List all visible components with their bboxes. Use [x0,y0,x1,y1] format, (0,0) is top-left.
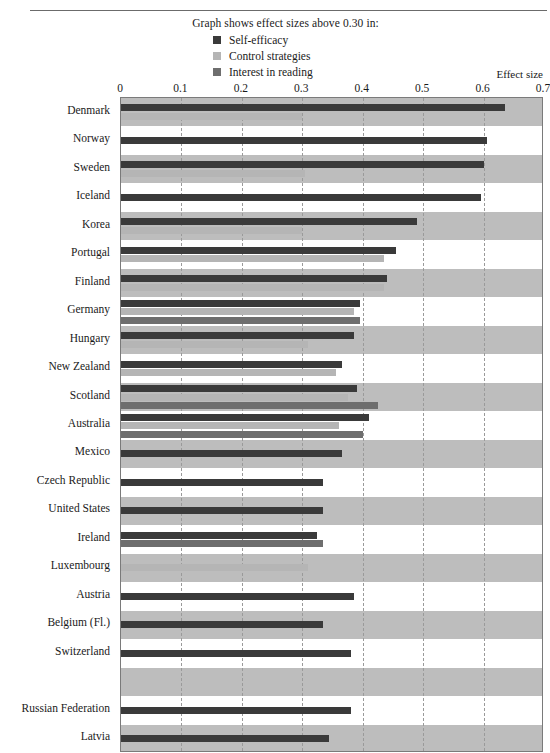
y-axis-category-label: Luxembourg [0,559,115,571]
bar [121,308,354,315]
y-axis-category-label: Portugal [0,246,115,258]
bar [121,402,378,409]
bar [121,341,308,348]
bar [121,479,323,486]
x-axis-tick-label: 0.1 [173,82,187,94]
bar [121,317,360,324]
bar [121,414,369,421]
x-axis-title: Effect size [496,68,543,80]
y-axis-category-label: Denmark [0,104,115,116]
bar [121,194,481,201]
bar [121,161,484,168]
bar [121,170,305,177]
x-axis-tick-label: 0.4 [355,82,369,94]
y-axis-category-label: Korea [0,218,115,230]
bar [121,507,323,514]
legend: Graph shows effect sizes above 0.30 in: … [0,17,547,81]
y-axis-category-label: Switzerland [0,645,115,657]
bar [121,621,323,628]
bar [121,369,336,376]
y-axis-category-label: Belgium (Fl.) [0,616,115,628]
bar [121,284,384,291]
y-axis-category-label: Finland [0,275,115,287]
bar [121,593,354,600]
bar [121,394,348,401]
bar [121,255,384,262]
bar [121,540,323,547]
bar [121,137,487,144]
legend-item-label: Interest in reading [229,65,313,79]
bar [121,275,387,282]
y-axis-category-label: Norway [0,132,115,144]
bar [121,650,351,657]
x-axis-tick-label: 0.7 [536,82,550,94]
x-axis-tick-labels: 00.10.20.30.40.50.60.7 [0,82,547,97]
plot-area [120,97,543,752]
bar [121,332,354,339]
legend-item-label: Self-efficacy [229,33,288,47]
legend-caption: Graph shows effect sizes above 0.30 in: [24,17,547,29]
bar [121,218,417,225]
x-axis-tick-label: 0 [117,82,123,94]
square-swatch-icon [213,52,221,60]
bar [121,385,357,392]
bar [121,735,329,742]
legend-item: Control strategies [213,49,547,63]
y-axis-category-label: Czech Republic [0,474,115,486]
bar [121,422,339,429]
y-axis-category-label: New Zealand [0,360,115,372]
x-axis-tick-label: 0.6 [475,82,489,94]
bar [121,532,317,539]
bar [121,300,360,307]
bar [121,564,308,571]
y-axis-category-labels: DenmarkNorwaySwedenIcelandKoreaPortugalF… [0,97,115,752]
y-axis-category-label: Australia [0,417,115,429]
bar [121,707,351,714]
bar [121,247,396,254]
x-axis-tick-label: 0.5 [415,82,429,94]
x-axis-tick-label: 0.3 [294,82,308,94]
row-band [121,668,542,696]
y-axis-category-label: Mexico [0,445,115,457]
bar [121,450,342,457]
y-axis-category-label: Scotland [0,389,115,401]
bar [121,104,505,111]
legend-items: Self-efficacyControl strategiesInterest … [0,33,547,79]
y-axis-category-label: Germany [0,303,115,315]
y-axis-category-label: Austria [0,588,115,600]
bar [121,431,363,438]
legend-item-label: Control strategies [229,49,310,63]
y-axis-category-label: Hungary [0,332,115,344]
title-rule [30,10,547,11]
x-axis-tick-label: 0.2 [234,82,248,94]
y-axis-category-label: Ireland [0,531,115,543]
y-axis-category-label: Sweden [0,161,115,173]
square-swatch-icon [213,36,221,44]
y-axis-category-label: Iceland [0,189,115,201]
legend-item: Self-efficacy [213,33,547,47]
square-swatch-icon [213,68,221,76]
y-axis-category-label: United States [0,502,115,514]
y-axis-category-label: Russian Federation [0,702,115,714]
gridline [484,98,485,751]
bar [121,227,302,234]
bar [121,361,342,368]
bar [121,113,302,120]
y-axis-category-label: Latvia [0,730,115,742]
